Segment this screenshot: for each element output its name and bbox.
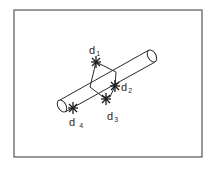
diagram-figure: d1 d2 d3 d4 — [0, 0, 213, 177]
measurement-quadrilateral — [90, 62, 116, 97]
star-marker-d2 — [110, 80, 120, 92]
label-d3-letter: d — [107, 110, 113, 122]
diagram-canvas — [0, 0, 213, 177]
label-d4-letter: d — [69, 116, 75, 128]
label-d4-subscript: 4 — [79, 122, 83, 129]
label-d2: d2 — [121, 82, 132, 94]
cylinder-top-edge — [60, 50, 149, 100]
label-d1: d1 — [89, 45, 100, 57]
label-d1-letter: d — [89, 44, 95, 56]
star-marker-d4 — [68, 102, 78, 114]
star-marker-d3 — [101, 93, 111, 105]
label-d3: d3 — [107, 111, 118, 123]
label-d2-letter: d — [121, 81, 127, 93]
label-d1-subscript: 1 — [96, 50, 100, 57]
figure-frame — [14, 10, 202, 157]
label-d3-subscript: 3 — [114, 116, 118, 123]
label-d2-subscript: 2 — [128, 87, 132, 94]
star-marker-d1 — [91, 56, 101, 68]
label-d4: d4 — [69, 117, 83, 129]
